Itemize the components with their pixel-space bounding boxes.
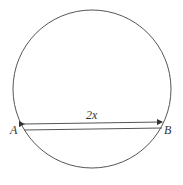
point-a-label: A [9, 123, 18, 137]
circle [13, 10, 171, 168]
dimension-label: 2x [86, 108, 98, 122]
circle-diagram: 2x A B [0, 0, 183, 185]
chord-ab [24, 128, 162, 130]
point-b-label: B [164, 123, 172, 137]
dimension-arrow [24, 122, 162, 124]
